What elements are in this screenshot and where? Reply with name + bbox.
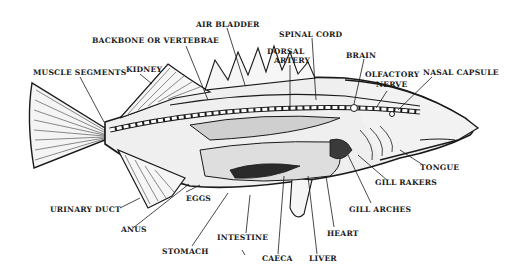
label-olfactory-nerve-line1: OLFACTORY	[365, 70, 419, 79]
label-tongue: TONGUE	[420, 163, 459, 172]
label-brain: BRAIN	[346, 51, 376, 60]
label-kidney: KIDNEY	[126, 65, 162, 74]
label-anus: ANUS	[121, 225, 147, 234]
label-backbone: BACKBONE OR VERTEBRAE	[92, 36, 219, 45]
label-liver: LIVER	[309, 254, 337, 263]
label-caeca: CAECA	[262, 254, 293, 263]
label-dorsal-artery-line2: ARTERY	[274, 56, 310, 65]
label-gill-arches: GILL ARCHES	[349, 205, 411, 214]
fish-anatomy-diagram: AIR BLADDER BACKBONE OR VERTEBRAE SPINAL…	[0, 0, 510, 267]
label-intestine: INTESTINE	[217, 233, 268, 242]
label-eggs: EGGS	[186, 194, 211, 203]
fish-illustration	[0, 0, 510, 267]
label-heart: HEART	[327, 229, 359, 238]
label-stomach: STOMACH	[162, 247, 209, 256]
label-gill-rakers: GILL RAKERS	[375, 178, 437, 187]
tail-fin	[29, 83, 105, 168]
label-olfactory-nerve-line2: NERVE	[376, 80, 407, 89]
label-nasal-capsule: NASAL CAPSULE	[423, 68, 499, 77]
brain	[351, 105, 358, 112]
label-dorsal-artery-line1: DORSAL	[267, 47, 304, 56]
label-muscle-segments: MUSCLE SEGMENTS	[33, 68, 126, 77]
label-spinal-cord: SPINAL CORD	[279, 30, 342, 39]
label-air-bladder: AIR BLADDER	[196, 20, 260, 29]
label-urinary-duct: URINARY DUCT	[50, 205, 121, 214]
